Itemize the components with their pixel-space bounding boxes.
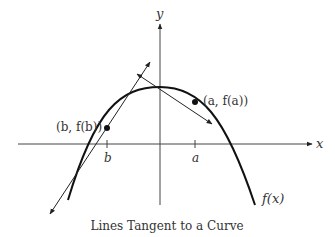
point-a <box>192 99 198 105</box>
curve-label: f(x) <box>261 191 284 206</box>
point-b-label: (b, f(b)) <box>56 120 102 134</box>
point-b <box>104 125 110 131</box>
tangent-line-b <box>50 62 150 214</box>
y-axis-label: y <box>155 6 164 21</box>
point-a-label: (a, f(a)) <box>203 94 248 108</box>
tick-a-label: a <box>192 151 199 165</box>
tangent-lines-diagram: x y f(x) (b, f(b)) (a, f(a)) b a Lines T… <box>0 0 335 237</box>
caption: Lines Tangent to a Curve <box>90 219 243 233</box>
tangent-line-a <box>137 74 212 124</box>
tick-b-label: b <box>104 151 112 165</box>
x-axis-label: x <box>316 136 324 151</box>
